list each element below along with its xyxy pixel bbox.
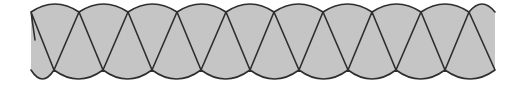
band-fill — [31, 4, 495, 79]
band-shape — [31, 4, 495, 79]
braid-pattern — [0, 0, 516, 87]
